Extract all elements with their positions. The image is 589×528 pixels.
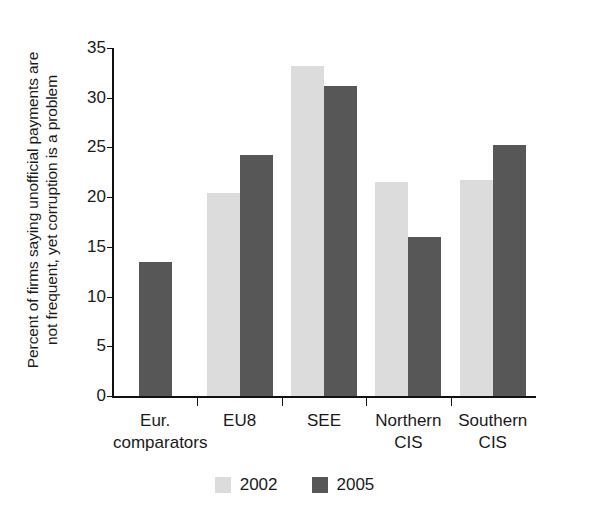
x-tick-mark [282, 397, 283, 406]
legend-item-2005: 2005 [312, 475, 375, 495]
y-tick-label: 15 [87, 236, 106, 256]
x-axis-line [112, 396, 536, 398]
legend-swatch-2005 [312, 477, 328, 493]
y-tick-label: 20 [87, 187, 106, 207]
y-tick-label: 5 [97, 336, 106, 356]
x-tick-mark [451, 397, 452, 406]
category-label: NorthernCIS [366, 410, 450, 454]
y-axis-title-line2: not frequent, yet corruption is a proble… [43, 52, 62, 368]
bar-2005-northern-cis [408, 237, 441, 396]
category-label-line1: Southern [451, 410, 535, 432]
y-tick-mark [107, 396, 113, 397]
chart-figure: Percent of firms saying unofficial payme… [0, 0, 589, 528]
category-label-line1: Northern [366, 410, 450, 432]
bar-2002-eu8 [207, 193, 240, 396]
category-label: EU8 [197, 410, 281, 432]
y-tick-label: 35 [87, 38, 106, 58]
y-axis-title-line1: Percent of firms saying unofficial payme… [24, 52, 43, 368]
legend-item-2002: 2002 [215, 475, 278, 495]
category-label-line1: EU8 [197, 410, 281, 432]
chart-legend: 20022005 [0, 475, 589, 495]
y-tick-label: 30 [87, 87, 106, 107]
bar-group [197, 48, 281, 396]
category-label: Eur.comparators [113, 410, 197, 454]
bar-2005-southern-cis [493, 145, 526, 396]
bar-2002-see [291, 66, 324, 396]
category-label-line1: SEE [282, 410, 366, 432]
plot-area: 05101520253035 Eur.comparatorsEU8SEENort… [113, 48, 535, 396]
bar-group [282, 48, 366, 396]
bar-group [113, 48, 197, 396]
y-tick-label: 25 [87, 137, 106, 157]
legend-swatch-2002 [215, 477, 231, 493]
x-tick-mark [366, 397, 367, 406]
bar-2005-eu8 [240, 155, 273, 396]
legend-label-2002: 2002 [240, 475, 278, 495]
bar-group [366, 48, 450, 396]
y-axis-title: Percent of firms saying unofficial payme… [0, 0, 86, 420]
category-label-line2: CIS [451, 432, 535, 454]
y-tick-label: 0 [97, 386, 106, 406]
bar-2002-southern-cis [460, 180, 493, 396]
x-tick-mark [197, 397, 198, 406]
category-label-line2: CIS [366, 432, 450, 454]
category-label-line2: comparators [113, 432, 197, 454]
category-label: SEE [282, 410, 366, 432]
category-label: SouthernCIS [451, 410, 535, 454]
legend-label-2005: 2005 [337, 475, 375, 495]
y-tick-label: 10 [87, 286, 106, 306]
bar-2002-northern-cis [375, 182, 408, 396]
category-label-line1: Eur. [113, 410, 197, 432]
bar-group [451, 48, 535, 396]
bar-2005-see [324, 86, 357, 396]
bar-2005-eur-comparators [139, 262, 172, 396]
